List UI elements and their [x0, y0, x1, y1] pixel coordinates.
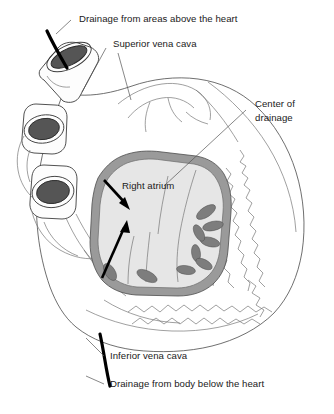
- leader-drainage-above: [56, 20, 71, 34]
- label-drainage-above: Drainage from areas above the heart: [79, 13, 238, 24]
- label-inferior-vena-cava: Inferior vena cava: [110, 350, 188, 361]
- label-center-of-drainage-line1: Center of: [255, 98, 295, 109]
- right-atrium-group: [90, 151, 231, 296]
- label-superior-vena-cava: Superior vena cava: [113, 38, 197, 49]
- vessel-opening-middle-group: [22, 104, 67, 154]
- label-drainage-below: Drainage from body below the heart: [110, 378, 265, 389]
- leader-drainage-below: [86, 376, 104, 384]
- vessel-opening-lower-group: [30, 165, 77, 219]
- label-center-of-drainage-line2: drainage: [255, 112, 293, 123]
- superior-vena-cava-vessel: [39, 36, 98, 102]
- label-right-atrium: Right atrium: [122, 180, 174, 191]
- anatomical-figure: Drainage from areas above the heart Supe…: [0, 0, 334, 414]
